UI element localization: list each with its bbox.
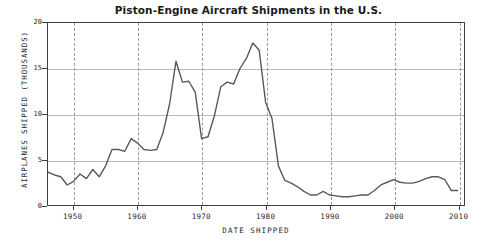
- y-tick-mark-10: [42, 114, 47, 115]
- x-tick-label-1960: 1960: [117, 212, 157, 221]
- x-tick-label-1950: 1950: [53, 212, 93, 221]
- y-tick-mark-20: [42, 22, 47, 23]
- x-tick-mark-2010: [459, 206, 460, 210]
- shipments-series-line: [48, 43, 458, 197]
- x-tick-label-2000: 2000: [374, 212, 414, 221]
- series-line-chart: [48, 23, 464, 205]
- x-tick-label-1990: 1990: [310, 212, 350, 221]
- y-axis-label: AIRPLANES SHIPPED (THOUSANDS): [20, 10, 29, 210]
- chart-figure: Piston-Engine Aircraft Shipments in the …: [0, 0, 497, 245]
- x-tick-label-1980: 1980: [246, 212, 286, 221]
- chart-title: Piston-Engine Aircraft Shipments in the …: [0, 4, 497, 16]
- x-tick-label-1970: 1970: [181, 212, 221, 221]
- x-tick-mark-1960: [137, 206, 138, 210]
- y-tick-mark-5: [42, 160, 47, 161]
- x-tick-mark-2000: [394, 206, 395, 210]
- x-tick-label-2010: 2010: [439, 212, 479, 221]
- y-tick-mark-0: [42, 206, 47, 207]
- x-tick-mark-1990: [330, 206, 331, 210]
- y-tick-mark-15: [42, 68, 47, 69]
- x-tick-mark-1980: [266, 206, 267, 210]
- x-tick-mark-1950: [73, 206, 74, 210]
- x-tick-mark-1970: [201, 206, 202, 210]
- x-axis-label: DATE SHIPPED: [47, 226, 465, 235]
- plot-area: [47, 22, 465, 206]
